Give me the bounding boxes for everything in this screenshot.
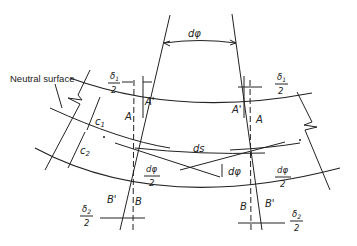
label-B-prime-left: B' xyxy=(107,194,117,205)
neutral-surface-leader xyxy=(55,84,62,108)
delta2-right-num: δ2 xyxy=(292,209,301,220)
left-original-section-line xyxy=(133,80,134,230)
left-rotated-section-line xyxy=(120,15,170,230)
right-break-symbol xyxy=(297,92,330,190)
dphi2-right-den: 2 xyxy=(280,179,285,189)
beam-element-svg: dφ δ1 2 δ1 2 A A' A' A Neutral surface c… xyxy=(0,0,357,246)
delta2-right-den: 2 xyxy=(294,223,299,233)
centroid-dot-right xyxy=(299,139,301,141)
dphi-mid-label: dφ xyxy=(228,166,241,177)
label-A-right: A xyxy=(255,114,263,125)
delta1-right-den: 2 xyxy=(278,86,283,96)
dphi2-right-num: dφ xyxy=(277,165,288,175)
dphi-top-arc xyxy=(164,41,236,44)
delta1-right-num: δ1 xyxy=(277,72,286,83)
delta1-left-num: δ1 xyxy=(110,71,119,82)
label-B-right: B xyxy=(240,201,247,212)
arrowhead-left xyxy=(164,41,170,46)
diagram-canvas: dφ δ1 2 δ1 2 A A' A' A Neutral surface c… xyxy=(0,0,357,246)
dphi-top-label: dφ xyxy=(188,28,201,39)
delta1-left-den: 2 xyxy=(111,85,116,95)
delta2-left-num: δ2 xyxy=(82,204,91,215)
c2-label: c2 xyxy=(80,145,91,158)
label-B-prime-right: B' xyxy=(265,198,275,209)
label-A-prime-left: A' xyxy=(144,96,155,107)
neutral-surface-label: Neutral surface xyxy=(10,73,74,84)
delta2-left-den: 2 xyxy=(84,218,89,228)
top-fiber-curve xyxy=(70,78,312,103)
centroid-dot-left xyxy=(103,136,105,138)
label-A-left: A xyxy=(124,111,132,122)
dphi2-left-den: 2 xyxy=(149,178,154,188)
label-A-prime-right: A' xyxy=(231,104,242,115)
right-original-section-line xyxy=(250,80,251,230)
ds-label: ds xyxy=(193,143,205,154)
label-B-left: B xyxy=(135,196,142,207)
dphi2-left-num: dφ xyxy=(146,164,157,174)
